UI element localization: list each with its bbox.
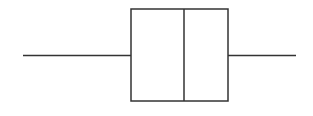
box-plot [0,0,313,116]
iqr-box [131,9,228,101]
